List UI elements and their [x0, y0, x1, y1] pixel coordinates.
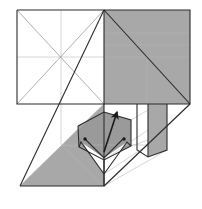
- reference-dot-right: [122, 137, 125, 140]
- origami-figure: [0, 0, 202, 209]
- origami-diagram-svg: [0, 0, 202, 209]
- reference-dot-left: [83, 137, 86, 140]
